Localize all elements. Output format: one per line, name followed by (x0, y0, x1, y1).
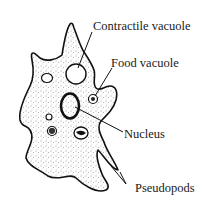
leader-pseudopod-1 (111, 166, 126, 184)
nucleus (61, 94, 79, 119)
label-contractile-vacuole: Contractile vacuole (93, 20, 191, 33)
label-pseudopods: Pseudopods (135, 182, 195, 195)
amoeba-diagram: Contractile vacuole Food vacuole Nucleus… (0, 0, 207, 208)
label-nucleus: Nucleus (124, 128, 165, 141)
contractile-vacuole (66, 64, 86, 84)
small-vacuole (42, 74, 53, 83)
food-particle (91, 97, 95, 101)
food-particle-core (49, 128, 55, 134)
label-food-vacuole: Food vacuole (111, 57, 179, 70)
small-vacuole-2 (46, 114, 52, 120)
